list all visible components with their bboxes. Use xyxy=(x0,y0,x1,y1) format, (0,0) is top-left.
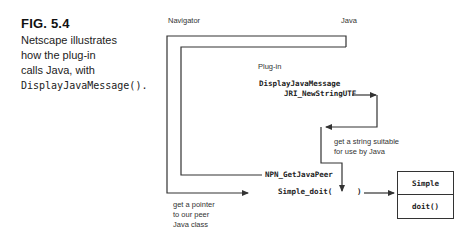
navigator-outer-line xyxy=(167,36,346,193)
class-name: Simple xyxy=(398,172,453,195)
class-method: doit() xyxy=(398,195,453,218)
simple-class-box: Simple doit() xyxy=(397,171,454,219)
jri-drop-line xyxy=(326,95,377,127)
return-line xyxy=(321,127,342,191)
